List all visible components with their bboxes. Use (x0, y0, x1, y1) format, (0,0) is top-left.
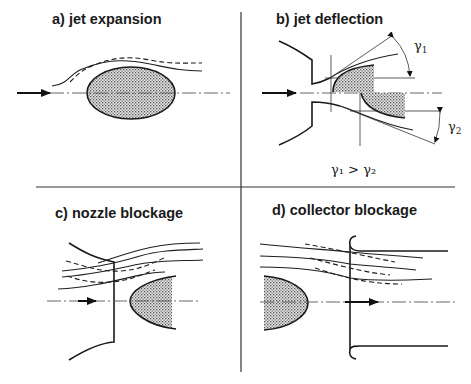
streamline-dashed (67, 270, 155, 282)
panel-title-b: b) jet deflection (276, 11, 383, 27)
nozzle-upper-wall (279, 41, 330, 84)
gamma-relation-label: γ₁ > γ₂ (331, 162, 376, 177)
panel-jet-deflection: b) jet deflection γ1 γ2 γ₁ > γ₂ (262, 11, 462, 177)
panel-collector-blockage: d) collector blockage (260, 202, 455, 359)
collector-upper-wall (350, 246, 448, 251)
collector-lower-wall (350, 346, 448, 349)
panel-dividers (36, 12, 455, 372)
panel-title-d: d) collector blockage (272, 202, 417, 218)
angle-arc-1 (393, 37, 410, 76)
gamma-2-label: γ2 (448, 119, 462, 136)
gamma-1-label: γ1 (414, 38, 428, 55)
panel-jet-expansion: a) jet expansion (17, 11, 230, 119)
panel-title-a: a) jet expansion (52, 11, 162, 27)
panel-nozzle-blockage: c) nozzle blockage (47, 205, 203, 360)
model-body-half (130, 276, 172, 329)
model-body-half (264, 276, 308, 330)
angle-arc-2 (435, 112, 440, 142)
wind-tunnel-correction-diagram: a) jet expansion b) jet deflection γ1 (0, 0, 471, 384)
collector-ring (350, 236, 356, 359)
panel-title-c: c) nozzle blockage (55, 205, 183, 221)
